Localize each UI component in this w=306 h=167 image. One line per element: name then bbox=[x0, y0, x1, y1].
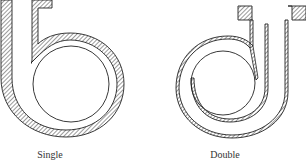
caption-double: Double bbox=[195, 149, 255, 160]
volute-diagram bbox=[0, 0, 306, 167]
double-impeller-circle bbox=[191, 51, 255, 115]
double-top-flange-right bbox=[288, 6, 306, 20]
double-volute bbox=[176, 6, 306, 138]
single-impeller-circle bbox=[33, 46, 109, 122]
double-outer-wall bbox=[238, 6, 252, 20]
single-volute bbox=[1, 0, 124, 137]
caption-single: Single bbox=[20, 149, 80, 160]
single-tongue bbox=[31, 60, 32, 64]
